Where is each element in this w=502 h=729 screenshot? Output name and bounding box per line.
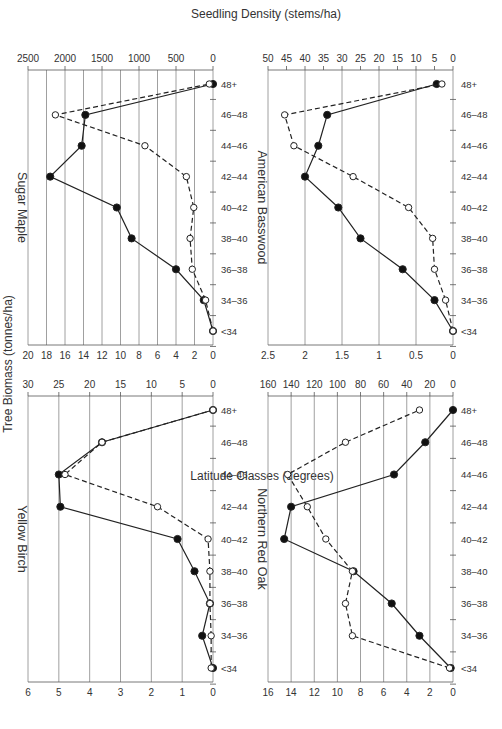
category-label: <34 xyxy=(461,326,477,337)
right-tick-label: 0 xyxy=(450,379,456,390)
biomass-marker xyxy=(47,173,54,180)
left-tick-label: 0 xyxy=(210,350,216,361)
right-tick-label: 0 xyxy=(210,53,216,64)
biomass-marker xyxy=(431,297,438,304)
seedling-marker xyxy=(431,266,437,272)
biomass-marker xyxy=(281,535,288,542)
right-tick-label: 15 xyxy=(392,53,404,64)
seedling-marker xyxy=(189,266,195,272)
seedling-marker xyxy=(99,439,105,445)
right-tick-label: 120 xyxy=(306,379,323,390)
right-tick-label: 10 xyxy=(410,53,422,64)
biomass-marker xyxy=(57,503,64,510)
seedling-marker xyxy=(349,633,355,639)
category-label: 38–40 xyxy=(221,566,247,577)
category-label: 48+ xyxy=(221,79,238,90)
seedling-marker xyxy=(442,297,448,303)
seedling-marker xyxy=(202,297,208,303)
seedling-density-line xyxy=(65,410,213,668)
biomass-marker xyxy=(357,235,364,242)
category-label: 44–46 xyxy=(461,469,487,480)
seedling-marker xyxy=(210,328,216,334)
left-tick-label: 1 xyxy=(376,350,382,361)
category-label: 38–40 xyxy=(461,566,487,577)
seedling-marker xyxy=(342,439,348,445)
left-tick-label: 0 xyxy=(450,350,456,361)
biomass-marker xyxy=(301,173,308,180)
panel-title: Sugar Maple xyxy=(15,172,29,243)
category-label: <34 xyxy=(461,663,477,674)
left-tick-label: 6 xyxy=(155,350,161,361)
left-tick-label: 1.5 xyxy=(335,350,349,361)
biomass-marker xyxy=(324,111,331,118)
right-tick-label: 500 xyxy=(168,53,185,64)
biomass-marker xyxy=(174,535,181,542)
left-tick-label: 4 xyxy=(404,687,410,698)
right-tick-label: 0 xyxy=(450,53,456,64)
seedling-marker xyxy=(281,112,287,118)
left-tick-label: 2 xyxy=(427,687,433,698)
category-label: <34 xyxy=(221,663,237,674)
seedling-marker xyxy=(291,143,297,149)
seedling-density-line xyxy=(55,84,213,331)
category-label: 34–36 xyxy=(461,630,487,641)
left-tick-label: 2 xyxy=(149,687,155,698)
left-tick-label: 8 xyxy=(136,350,142,361)
multi-panel-chart: Tree Biomass (tonnes/ha) Seedling Densit… xyxy=(0,0,502,729)
left-tick-label: 2 xyxy=(302,350,308,361)
panel-title: Yellow Birch xyxy=(15,505,29,573)
right-tick-label: 20 xyxy=(373,53,385,64)
biomass-marker xyxy=(113,204,120,211)
seedling-marker xyxy=(342,600,348,606)
right-tick-label: 40 xyxy=(299,53,311,64)
tree-biomass-axis-label: Tree Biomass (tonnes/ha) xyxy=(1,295,15,433)
biomass-marker xyxy=(390,471,397,478)
category-label: 42–44 xyxy=(221,501,247,512)
seedling-marker xyxy=(450,328,456,334)
biomass-marker xyxy=(315,142,322,149)
right-tick-label: 1500 xyxy=(91,53,114,64)
right-tick-label: 2000 xyxy=(54,53,77,64)
panel-title: American Basswood xyxy=(255,151,269,265)
category-label: 46–48 xyxy=(221,109,247,120)
category-label: 42–44 xyxy=(461,501,487,512)
biomass-marker xyxy=(399,266,406,273)
seedling-marker xyxy=(206,81,212,87)
right-tick-label: 25 xyxy=(53,379,65,390)
panel-title: Northern Red Oak xyxy=(255,488,269,590)
right-tick-label: 160 xyxy=(260,379,277,390)
right-tick-label: 5 xyxy=(432,53,438,64)
seedling-marker xyxy=(439,81,445,87)
category-label: 34–36 xyxy=(461,295,487,306)
seedling-marker xyxy=(207,568,213,574)
category-label: 40–42 xyxy=(461,534,487,545)
left-tick-label: 0 xyxy=(210,687,216,698)
left-tick-label: 2 xyxy=(192,350,198,361)
biomass-marker xyxy=(416,632,423,639)
category-label: 44–46 xyxy=(461,140,487,151)
right-tick-label: 30 xyxy=(22,379,34,390)
seedling-marker xyxy=(205,536,211,542)
panel-sugar-maple: 0246810121416182005001000150020002500<34… xyxy=(15,53,247,361)
left-tick-label: 4 xyxy=(87,687,93,698)
category-label: 36–38 xyxy=(461,264,487,275)
right-tick-label: 20 xyxy=(424,379,436,390)
category-label: 46–48 xyxy=(461,109,487,120)
biomass-marker xyxy=(82,111,89,118)
figure-stage: Tree Biomass (tonnes/ha) Seedling Densit… xyxy=(0,0,502,729)
right-tick-label: 60 xyxy=(378,379,390,390)
right-tick-label: 140 xyxy=(283,379,300,390)
left-tick-label: 6 xyxy=(25,687,31,698)
seedling-density-axis-label: Seedling Density (stems/ha) xyxy=(191,7,341,21)
seedling-marker xyxy=(446,665,452,671)
right-tick-label: 10 xyxy=(146,379,158,390)
right-tick-label: 20 xyxy=(84,379,96,390)
category-label: 46–48 xyxy=(461,437,487,448)
seedling-marker xyxy=(187,235,193,241)
right-tick-label: 35 xyxy=(318,53,330,64)
category-label: 36–38 xyxy=(221,598,247,609)
left-tick-label: 8 xyxy=(358,687,364,698)
left-tick-label: 4 xyxy=(173,350,179,361)
seedling-marker xyxy=(208,665,214,671)
biomass-marker xyxy=(449,406,456,413)
